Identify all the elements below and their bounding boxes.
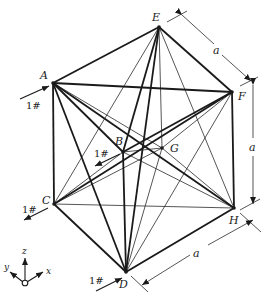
node-label-e: E [151, 11, 160, 24]
thin-members [53, 27, 234, 272]
thick-member-eb [123, 27, 159, 152]
dimension-label-ef: a [213, 44, 220, 57]
joint-b [121, 150, 125, 154]
axis-triad [10, 258, 43, 286]
thin-member-bh [123, 152, 234, 208]
thick-member-ab [53, 83, 123, 152]
joint-a [51, 81, 55, 85]
axis-label-x: x [46, 266, 51, 276]
thick-member-bd [123, 152, 126, 272]
thick-member-ac [53, 83, 54, 204]
load-d: 1# [89, 275, 122, 291]
node-label-g: G [170, 142, 179, 155]
thin-member-ag [53, 83, 162, 148]
joint-f [230, 90, 234, 94]
thick-member-ae [53, 27, 159, 83]
joint-g [160, 146, 164, 150]
load-a: 1# [20, 86, 49, 111]
thick-member-cd [54, 204, 126, 272]
thick-member-ed [126, 27, 159, 272]
joint-d [124, 270, 128, 274]
thin-member-ch [54, 204, 234, 208]
node-label-b: B [114, 135, 123, 148]
axis-label-z: z [21, 246, 27, 256]
thick-member-ad [53, 83, 126, 272]
thin-member-fg [162, 92, 232, 148]
thin-member-ec [54, 27, 159, 204]
node-label-f: F [237, 90, 246, 103]
thin-member-cb [54, 152, 123, 204]
thin-member-eh [159, 27, 234, 208]
axis-label-y: y [3, 262, 10, 272]
load-label-c: 1# [22, 204, 37, 215]
dimension-label-dh: a [193, 247, 200, 260]
thin-member-fd [126, 92, 232, 272]
thick-member-fh [232, 92, 234, 208]
joint-h [232, 206, 236, 210]
joint-e [157, 25, 161, 29]
node-label-h: H [228, 214, 239, 227]
truss-diagram: E A F B G C H D 1# 1# 1# 1# a a [0, 0, 272, 301]
node-label-c: C [42, 194, 51, 207]
load-label-b: 1# [94, 148, 109, 159]
joint-c [52, 202, 56, 206]
thick-member-ah [53, 83, 234, 208]
load-label-a: 1# [26, 100, 41, 111]
load-label-d: 1# [89, 275, 104, 286]
node-label-a: A [39, 69, 48, 82]
thin-member-gh [162, 148, 234, 208]
thick-member-ef [159, 27, 232, 92]
dimension-label-fh: a [249, 141, 256, 154]
node-label-d: D [118, 278, 128, 291]
